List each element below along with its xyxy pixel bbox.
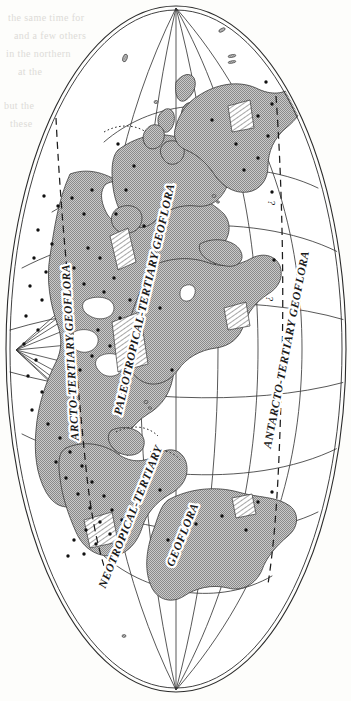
islet — [154, 100, 158, 103]
locality-dot — [102, 290, 105, 293]
locality-dot — [108, 532, 111, 535]
locality-dot — [280, 68, 283, 71]
locality-dot — [90, 480, 93, 483]
locality-dot — [36, 328, 39, 331]
locality-dot — [86, 246, 89, 249]
locality-dot — [242, 168, 245, 171]
locality-dot — [70, 196, 73, 199]
hatch-area-4 — [228, 100, 254, 132]
locality-dot — [256, 500, 259, 503]
locality-dot — [44, 270, 47, 273]
locality-dot — [84, 528, 87, 531]
locality-dot — [270, 490, 273, 493]
locality-dot — [28, 284, 31, 287]
locality-dot — [50, 242, 53, 245]
locality-dot — [32, 256, 35, 259]
locality-dot — [114, 212, 117, 215]
locality-dot — [272, 258, 275, 261]
islet — [217, 201, 220, 203]
locality-dot — [30, 408, 33, 411]
locality-dot — [66, 554, 69, 557]
locality-dot — [270, 190, 273, 193]
locality-dot — [158, 488, 161, 491]
locality-dot — [244, 528, 247, 531]
islet — [144, 400, 148, 403]
locality-dot — [64, 476, 67, 479]
locality-dot — [82, 282, 85, 285]
locality-dot — [36, 228, 39, 231]
locality-dot — [90, 188, 93, 191]
query-mark-upper: ? — [266, 200, 277, 205]
locality-dot — [96, 328, 99, 331]
locality-dot — [128, 298, 131, 301]
locality-dot — [46, 422, 49, 425]
locality-dot — [54, 460, 57, 463]
locality-dot — [112, 276, 115, 279]
world-map-svg: ? ? ARCTO-TERTIARY GEOFLORA ARCTO-TERTIA… — [0, 0, 351, 701]
locality-dot — [72, 266, 75, 269]
islet — [212, 195, 216, 198]
locality-dot — [124, 188, 127, 191]
locality-dot — [266, 134, 269, 137]
locality-dot — [90, 354, 93, 357]
locality-dot — [116, 142, 119, 145]
locality-dot — [72, 538, 75, 541]
locality-dot — [40, 390, 43, 393]
locality-dot — [98, 256, 101, 259]
hatch-area-5 — [232, 494, 256, 518]
locality-dot — [118, 316, 121, 319]
locality-dot — [78, 368, 81, 371]
locality-dot — [76, 492, 79, 495]
locality-dot — [170, 368, 173, 371]
locality-dot — [220, 514, 223, 517]
islet — [122, 635, 126, 638]
locality-dot — [34, 358, 37, 361]
locality-dot — [256, 156, 259, 159]
locality-dot — [132, 164, 135, 167]
locality-dot — [56, 204, 59, 207]
locality-dot — [22, 342, 25, 345]
locality-dot — [82, 212, 85, 215]
locality-dot — [270, 102, 273, 105]
locality-dot — [102, 494, 105, 497]
locality-dot — [166, 538, 169, 541]
locality-dot — [194, 522, 197, 525]
land-nz-south — [305, 86, 330, 116]
locality-dot — [40, 298, 43, 301]
query-mark-lower: ? — [264, 296, 275, 301]
locality-dot — [68, 450, 71, 453]
locality-dot — [24, 314, 27, 317]
locality-dot — [256, 114, 259, 117]
locality-dot — [58, 436, 61, 439]
land-nz-north — [297, 51, 320, 77]
locality-dot — [264, 80, 267, 83]
locality-dot — [42, 194, 45, 197]
figure-container: the same time for and a few others in th… — [0, 0, 351, 701]
locality-dot — [80, 464, 83, 467]
locality-dot — [110, 508, 113, 511]
locality-dot — [234, 142, 237, 145]
locality-dot — [108, 344, 111, 347]
locality-dot — [210, 118, 213, 121]
islet — [148, 407, 151, 410]
locality-dot — [158, 306, 161, 309]
locality-dot — [98, 520, 101, 523]
locality-dot — [82, 552, 85, 555]
locality-dot — [142, 224, 145, 227]
locality-dot — [26, 374, 29, 377]
